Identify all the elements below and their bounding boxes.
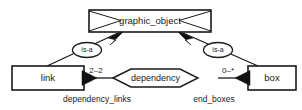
isa-node-left[interactable]: is-a [73,43,102,58]
relationship-arrowhead-box-icon [235,71,250,86]
entity-link[interactable]: link [12,66,84,90]
isa-node-right[interactable]: is-a [204,43,233,58]
relationship-dependency-label: dependency [131,73,181,83]
entity-box-label: box [264,72,280,83]
er-diagram: graphic_object is-a is-a link box [0,0,302,110]
isa-node-right-label: is-a [212,46,223,53]
entity-link-label: link [41,72,56,83]
cardinality-box-side: 0–* [222,66,234,75]
entity-box[interactable]: box [248,66,296,90]
cardinality-link-side: 2–2 [89,66,103,75]
role-label-dependency-links: dependency_links [63,94,131,104]
relationship-dependency[interactable]: dependency [113,69,198,87]
diagram-canvas: graphic_object is-a is-a link box [0,0,302,110]
role-label-end-boxes: end_boxes [193,94,235,104]
entity-graphic-object-label: graphic_object [119,15,181,26]
entity-graphic-object[interactable]: graphic_object [89,10,211,32]
isa-node-left-label: is-a [81,46,92,53]
